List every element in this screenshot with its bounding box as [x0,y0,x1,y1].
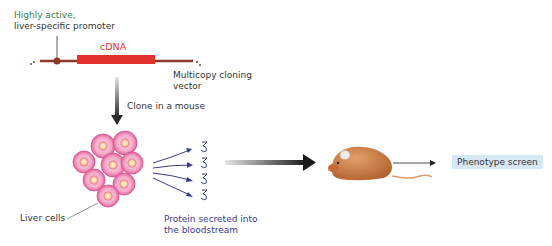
liver-cells-icon [73,131,143,207]
mouse-icon [328,147,432,181]
vector-label-line2: vector [173,81,202,92]
right-arrow-icon [225,154,316,171]
liver-cells-label: Liver cells [20,213,65,224]
promoter-marker [54,58,61,65]
cdna-block [77,55,155,64]
arrowheads [186,148,193,197]
secretion-arrows [153,150,190,195]
small-right-arrow-icon [393,160,436,166]
protein-label-line2: the bloodstream [164,225,238,236]
promoter-label-line2: liver-specific promoter [14,21,115,32]
diagram-graphics [0,0,552,246]
promoter-label-line1: Highly active, [14,10,76,21]
down-arrow-icon [111,77,123,125]
liver-cells-pointer [67,203,98,219]
phenotype-screen-label: Phenotype screen [452,155,543,169]
protein-icons [201,142,207,200]
cdna-label: cDNA [100,41,126,52]
vector-label-line1: Multicopy cloning [173,70,252,81]
clone-in-mouse-label: Clone in a mouse [127,101,205,112]
protein-label-line1: Protein secreted into [164,214,258,225]
